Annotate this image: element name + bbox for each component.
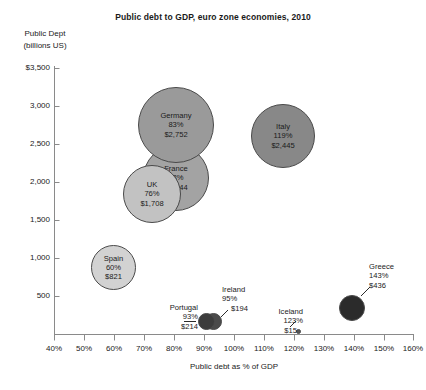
x-tick-label: 110%: [247, 345, 281, 353]
label-portugal-name: Portugal: [138, 303, 198, 312]
bubble-spain[interactable]: Spain 60% $821: [91, 245, 136, 290]
leader-line-ireland: [220, 308, 232, 320]
x-tick-label: 140%: [337, 345, 371, 353]
plot-area: [0, 0, 426, 390]
x-tick-label: 90%: [187, 345, 221, 353]
x-tick-label: 160%: [396, 345, 426, 353]
x-tick-label: 70%: [127, 345, 161, 353]
bubble-label-name: UK: [147, 180, 158, 189]
x-tick-label: 80%: [157, 345, 191, 353]
y-tick-label: $3,500: [2, 64, 50, 72]
bubble-label-pct: 60%: [106, 263, 121, 272]
x-tick-label: 60%: [97, 345, 131, 353]
x-axis-title: Public debt as % of GDP: [54, 362, 414, 371]
label-greece-pct: 143%: [369, 271, 425, 280]
bubble-italy[interactable]: Italy 119% $2,445: [251, 104, 315, 168]
label-greece-name: Greece: [369, 262, 425, 271]
x-tick-label: 40%: [37, 345, 71, 353]
label-iceland-name: Iceland: [243, 307, 303, 316]
bubble-label-pct: 83%: [168, 120, 183, 129]
y-tick-label: 2,500: [2, 140, 50, 148]
label-greece: Greece 143% $436: [369, 262, 425, 290]
bubble-label-pct: 119%: [274, 131, 293, 140]
x-tick-label: 100%: [217, 345, 251, 353]
label-portugal-value: $214: [138, 322, 198, 331]
y-tick-label: 500: [2, 292, 50, 300]
y-tick-label: 2,000: [2, 178, 50, 186]
bubble-label-value: $821: [105, 272, 122, 281]
y-tick-marks: [55, 69, 60, 297]
leader-line-portugal: [184, 321, 196, 322]
bubble-uk[interactable]: UK 76% $1,708: [123, 165, 181, 223]
leader-line-iceland: [289, 320, 299, 330]
label-ireland-pct: 95%: [222, 294, 282, 303]
bubble-label-name: Spain: [104, 254, 123, 263]
bubble-chart: Public debt to GDP, euro zone economies,…: [0, 0, 426, 390]
label-portugal: Portugal 93% $214: [138, 303, 198, 331]
bubble-label-value: $2,445: [271, 141, 294, 150]
bubble-label-name: Germany: [160, 111, 191, 120]
bubble-label-name: Italy: [276, 122, 290, 131]
y-tick-label: 1,500: [2, 216, 50, 224]
leader-line-greece: [360, 285, 374, 299]
bubble-label-pct: 76%: [144, 189, 159, 198]
y-tick-label: 3,000: [2, 102, 50, 110]
x-tick-marks: [55, 335, 414, 341]
bubble-germany[interactable]: Germany 83% $2,752: [138, 87, 214, 163]
x-tick-label: 50%: [67, 345, 101, 353]
bubble-portugal[interactable]: [198, 313, 215, 330]
x-tick-label: 120%: [277, 345, 311, 353]
bubble-label-value: $2,752: [164, 130, 187, 139]
x-tick-label: 130%: [307, 345, 341, 353]
bubble-label-value: $1,708: [140, 199, 163, 208]
label-ireland-name: Ireland: [222, 285, 282, 294]
label-greece-value: $436: [369, 281, 425, 290]
y-tick-label: 1,000: [2, 254, 50, 262]
